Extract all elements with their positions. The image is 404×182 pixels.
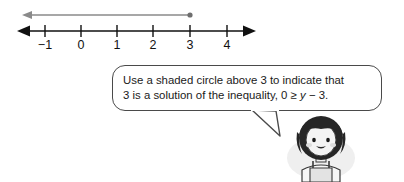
tick-label-1: 1	[105, 38, 129, 52]
tick-label-0: 0	[69, 38, 93, 52]
tick-label-2: 2	[141, 38, 165, 52]
callout-line-2-after: − 3.	[306, 89, 328, 101]
callout-text: Use a shaded circle above 3 to indicate …	[123, 73, 375, 103]
tick-label-4: 4	[215, 38, 239, 52]
callout-line-2-before: 3 is a solution of the inequality, 0 ≥	[123, 89, 300, 101]
tick-label-minus-1: −1	[33, 38, 57, 52]
number-line: −1 0 1 2 3 4	[0, 0, 270, 56]
diagram-stage: −1 0 1 2 3 4 Use a shaded circle above 3…	[0, 0, 404, 182]
character-illustration	[280, 112, 362, 182]
girl-student-icon	[280, 112, 362, 182]
callout-bubble: Use a shaded circle above 3 to indicate …	[112, 65, 382, 111]
tick-label-3: 3	[178, 38, 202, 52]
solution-ray	[22, 11, 193, 19]
axis-line	[17, 26, 256, 37]
callout-line-1: Use a shaded circle above 3 to indicate …	[123, 74, 344, 86]
